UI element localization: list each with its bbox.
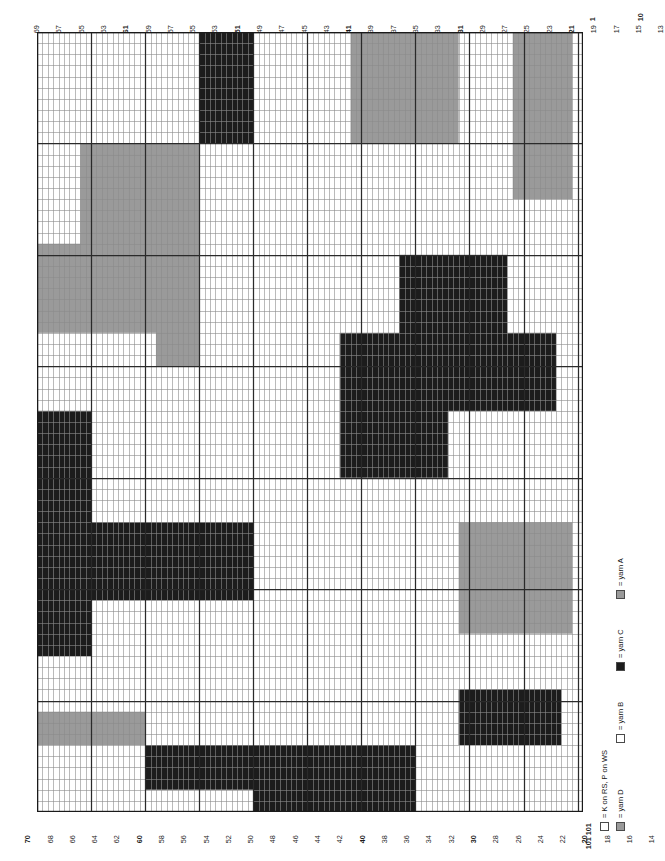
legend-entry-yarn_D: = yarn D (616, 789, 625, 831)
bottom-axis-row-marker: 101 101 (585, 823, 592, 849)
bottom-axis-label-28: 28 (492, 835, 499, 843)
chart-canvas[interactable] (37, 32, 583, 812)
legend-swatch-yarn_B-icon (616, 734, 625, 743)
bottom-axis-label-34: 34 (425, 835, 432, 843)
bottom-axis-label-30: 30 (470, 835, 477, 843)
legend-label-yarn_A: = yarn A (617, 558, 625, 586)
legend-swatch-yarn_C-icon (616, 662, 625, 671)
bottom-axis-label-64: 64 (91, 835, 98, 843)
bottom-axis-label-58: 58 (158, 835, 165, 843)
legend-swatch-knit-icon (600, 822, 609, 831)
legend-label-yarn_D: = yarn D (617, 789, 625, 818)
bottom-axis-label-66: 66 (69, 835, 76, 843)
chart-legend: = K on RS, P on WS= yarn D= yarn B= yarn… (600, 545, 662, 845)
bottom-axis-label-54: 54 (202, 835, 209, 843)
bottom-axis-label-56: 56 (180, 835, 187, 843)
legend-swatch-yarn_D-icon (616, 822, 625, 831)
bottom-stitch-axis: 7068666462605856545250484644424038363432… (0, 812, 665, 852)
bottom-axis-label-60: 60 (135, 835, 142, 843)
bottom-axis-label-48: 48 (269, 835, 276, 843)
legend-entry-knit: = K on RS, P on WS (600, 750, 609, 831)
bottom-axis-label-44: 44 (314, 835, 321, 843)
legend-label-yarn_C: = yarn C (617, 629, 625, 658)
bottom-axis-label-70: 70 (24, 835, 31, 843)
bottom-axis-label-46: 46 (291, 835, 298, 843)
legend-entry-yarn_B: = yarn B (616, 702, 625, 743)
bottom-axis-label-36: 36 (403, 835, 410, 843)
bottom-axis-label-40: 40 (358, 835, 365, 843)
bottom-axis-label-68: 68 (46, 835, 53, 843)
top-stitch-axis: 6967656361595755535149474543413937353331… (0, 0, 665, 30)
bottom-axis-label-24: 24 (537, 835, 544, 843)
bottom-axis-label-32: 32 (447, 835, 454, 843)
bottom-axis-label-52: 52 (225, 835, 232, 843)
top-axis-label-15: 15 (635, 25, 642, 33)
bottom-axis-label-42: 42 (336, 835, 343, 843)
legend-label-knit: = K on RS, P on WS (601, 750, 609, 818)
knitting-chart-grid[interactable] (37, 32, 583, 812)
legend-entry-yarn_C: = yarn C (616, 629, 625, 671)
row-axis-label-10: 10 (637, 13, 644, 21)
bottom-axis-label-22: 22 (559, 835, 566, 843)
top-axis-label-13: 13 (657, 25, 664, 33)
legend-swatch-yarn_A-icon (616, 590, 625, 599)
bottom-axis-label-62: 62 (113, 835, 120, 843)
legend-entry-yarn_A: = yarn A (616, 558, 625, 599)
bottom-axis-label-26: 26 (514, 835, 521, 843)
bottom-axis-label-38: 38 (381, 835, 388, 843)
row-axis-label-1: 1 (588, 17, 595, 21)
legend-label-yarn_B: = yarn B (617, 702, 625, 730)
bottom-axis-label-50: 50 (247, 835, 254, 843)
